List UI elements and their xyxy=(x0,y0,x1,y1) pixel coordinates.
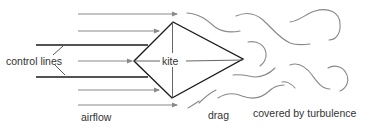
turbulence-curve-3 xyxy=(290,10,340,40)
drag-label: drag xyxy=(208,109,229,121)
turbulence-label: covered by turbulence xyxy=(253,107,356,119)
kite-label: kite xyxy=(162,55,179,67)
kite-airflow-diagram: control lines kite airflow drag covered … xyxy=(0,0,369,131)
turbulence-curve-10 xyxy=(199,90,216,103)
turbulence-curve-1 xyxy=(187,13,240,32)
control-lines-label: control lines xyxy=(6,55,62,67)
turbulence-curve-7 xyxy=(328,66,348,91)
kite-spine-horizontal-right xyxy=(186,60,243,61)
turbulence-curve-2 xyxy=(236,14,310,45)
turbulence-curve-4 xyxy=(248,42,266,66)
turbulence-curves xyxy=(187,10,348,108)
turbulence-curve-11 xyxy=(188,101,199,108)
turbulence-curve-5 xyxy=(233,68,275,77)
turbulence-curve-6 xyxy=(290,64,330,89)
turbulence-curve-8 xyxy=(218,85,284,98)
kite-shape xyxy=(134,22,243,98)
airflow-label: airflow xyxy=(81,111,112,123)
